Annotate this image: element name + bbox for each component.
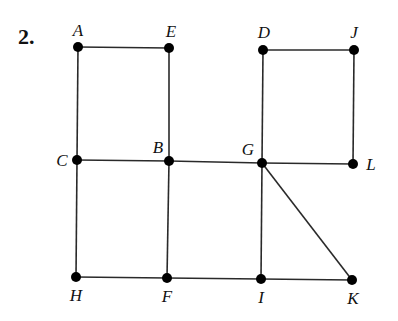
vertex-e [164,43,174,53]
edge-b-f [167,161,169,278]
edge-d-g [262,50,263,163]
vertex-label-b: B [153,138,164,157]
vertex-h [71,272,81,282]
vertex-j [349,45,359,55]
vertex-label-f: F [161,287,173,306]
vertex-label-a: A [72,21,84,40]
edge-i-k [261,279,352,280]
vertex-k [347,275,357,285]
edge-a-e [78,47,169,48]
edge-g-i [261,163,262,279]
edge-j-l [353,50,354,164]
vertex-label-k: K [346,289,360,308]
graph-edges [76,47,354,280]
vertex-i [256,274,266,284]
problem-number: 2. [18,24,35,49]
edge-g-k [262,163,352,280]
edge-a-c [77,47,78,160]
vertex-d [258,45,268,55]
vertex-g [257,158,267,168]
graph-diagram: 2. AEDJCBGLHFIK [0,0,398,321]
vertex-l [348,159,358,169]
vertex-f [162,273,172,283]
vertex-b [164,156,174,166]
edge-c-h [76,160,77,277]
vertex-label-d: D [257,23,271,42]
vertex-label-j: J [350,23,359,42]
edge-f-i [167,278,261,279]
edge-h-f [76,277,167,278]
vertex-a [73,42,83,52]
vertex-label-i: I [257,288,265,307]
edge-b-g [169,161,262,163]
vertex-label-g: G [242,140,254,159]
vertex-c [72,155,82,165]
vertex-label-e: E [165,22,177,41]
vertex-label-h: H [69,286,84,305]
edge-c-b [77,160,169,161]
vertex-label-l: L [365,155,375,174]
vertex-label-c: C [56,151,68,170]
edge-g-l [262,163,353,164]
